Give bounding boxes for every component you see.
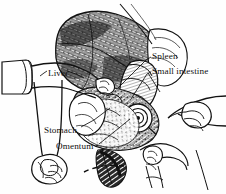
label-stomach: Stomach: [44, 126, 77, 135]
label-spleen: Spleen: [152, 52, 178, 61]
anatomical-figure: Spleen Small intestine Liver Stomach Ome…: [0, 0, 226, 194]
figure-illustration: [0, 0, 226, 194]
label-liver: Liver: [48, 69, 68, 78]
label-omentum: Omentum: [56, 142, 93, 151]
label-small-intestine: Small intestine: [152, 67, 208, 76]
